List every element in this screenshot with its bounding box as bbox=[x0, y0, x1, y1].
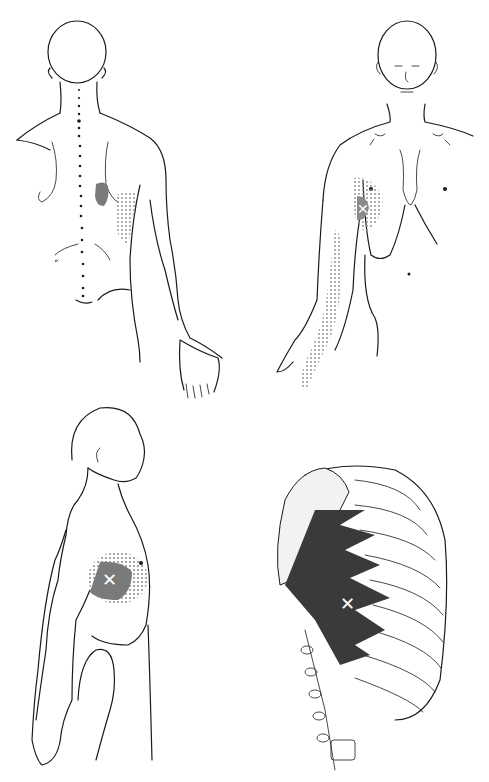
trigger-point-marker: ✕ bbox=[102, 569, 117, 590]
spine-markers bbox=[77, 89, 84, 297]
anterior-view-panel: ✕ bbox=[245, 0, 489, 400]
lateral-view-panel: ✕ bbox=[0, 400, 245, 782]
arm-spillover-zone bbox=[301, 230, 342, 392]
essential-pain-zone bbox=[95, 182, 109, 206]
posterior-body-illustration bbox=[0, 0, 245, 400]
lateral-body-illustration: ✕ bbox=[0, 400, 245, 782]
anterior-body-illustration: ✕ bbox=[245, 0, 489, 400]
trigger-point-marker: ✕ bbox=[340, 593, 355, 614]
posterior-view-panel bbox=[0, 0, 245, 400]
ribcage-muscle-illustration: ✕ bbox=[245, 450, 489, 782]
trigger-point-marker: ✕ bbox=[357, 201, 369, 217]
anatomy-view-panel: ✕ bbox=[245, 450, 489, 782]
